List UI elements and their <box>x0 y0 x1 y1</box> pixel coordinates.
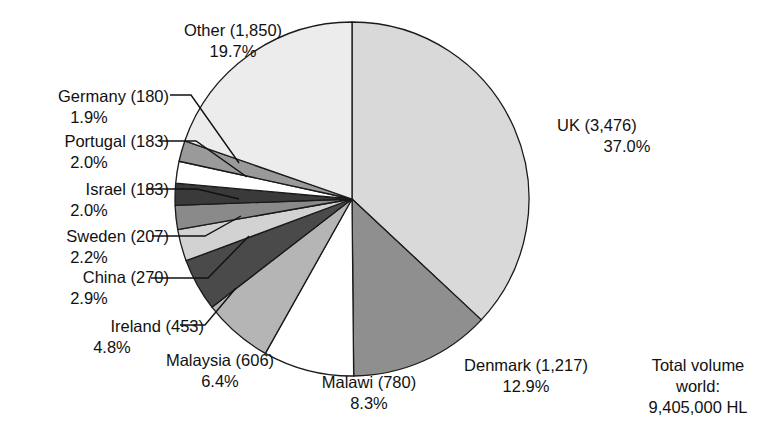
pie-label-israel: Israel (183) 2.0% <box>9 179 169 221</box>
pie-label-china-line2: 2.9% <box>9 288 169 309</box>
pie-label-malaysia-line1: Malaysia (606) <box>140 350 300 371</box>
total-volume-line3: 9,405,000 HL <box>630 397 766 418</box>
pie-label-china-line1: China (270) <box>9 267 169 288</box>
pie-label-germany-line1: Germany (180) <box>9 86 169 107</box>
pie-label-sweden: Sweden (207) 2.2% <box>9 226 169 268</box>
pie-label-other-line1: Other (1,850) <box>143 20 323 41</box>
pie-label-denmark-line2: 12.9% <box>440 376 612 397</box>
pie-label-germany: Germany (180) 1.9% <box>9 86 169 128</box>
pie-label-denmark-line1: Denmark (1,217) <box>440 355 612 376</box>
pie-label-other: Other (1,850) 19.7% <box>143 20 323 62</box>
pie-label-denmark: Denmark (1,217) 12.9% <box>440 355 612 397</box>
pie-label-uk-line1: UK (3,476) <box>557 115 697 136</box>
pie-label-israel-line1: Israel (183) <box>9 179 169 200</box>
total-volume-annotation: Total volume world: 9,405,000 HL <box>630 355 766 418</box>
pie-slice-group <box>175 22 529 376</box>
pie-label-portugal: Portugal (183) 2.0% <box>9 131 169 173</box>
pie-label-malaysia-line2: 6.4% <box>140 371 300 392</box>
pie-label-israel-line2: 2.0% <box>9 200 169 221</box>
pie-label-sweden-line2: 2.2% <box>9 247 169 268</box>
pie-label-sweden-line1: Sweden (207) <box>9 226 169 247</box>
total-volume-line2: world: <box>630 376 766 397</box>
pie-label-uk: UK (3,476) 37.0% <box>557 115 697 157</box>
pie-label-malawi: Malawi (780) 8.3% <box>296 372 442 414</box>
pie-label-uk-line2: 37.0% <box>557 136 697 157</box>
pie-label-germany-line2: 1.9% <box>9 107 169 128</box>
pie-label-other-line2: 19.7% <box>143 41 323 62</box>
pie-label-portugal-line1: Portugal (183) <box>9 131 169 152</box>
pie-label-portugal-line2: 2.0% <box>9 152 169 173</box>
pie-label-malawi-line1: Malawi (780) <box>296 372 442 393</box>
pie-label-china: China (270) 2.9% <box>9 267 169 309</box>
pie-chart-page: Other (1,850) 19.7% Germany (180) 1.9% P… <box>0 0 769 429</box>
pie-label-malawi-line2: 8.3% <box>296 393 442 414</box>
pie-label-ireland-line1: Ireland (453) <box>20 316 204 337</box>
pie-label-malaysia: Malaysia (606) 6.4% <box>140 350 300 392</box>
total-volume-line1: Total volume <box>630 355 766 376</box>
